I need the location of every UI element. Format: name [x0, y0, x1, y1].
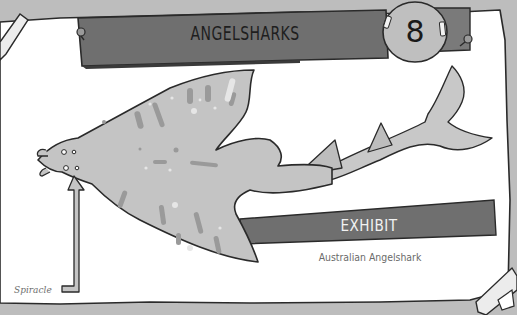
spiracle-label: Spiracle — [14, 283, 64, 297]
species-name: Australian Angelshark — [285, 250, 455, 266]
chapter-number: 8 — [390, 10, 440, 54]
page-title: ANGELSHARKS — [167, 18, 323, 48]
exhibit-label: EXHIBIT — [261, 211, 477, 241]
angelshark-infographic: ANGELSHARKS 8 EXHIBIT Australian Angelsh… — [0, 0, 517, 315]
